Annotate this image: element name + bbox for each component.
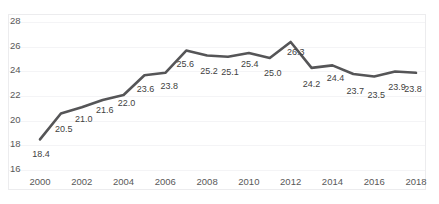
line-chart: 16182022242628 2000200220042006200820102… [0,0,439,204]
x-tick-label: 2000 [20,176,60,188]
x-tick-label: 2006 [145,176,185,188]
data-point-label: 25.0 [264,69,282,78]
x-tick-label: 2012 [271,176,311,188]
x-tick-label: 2008 [187,176,227,188]
x-tick-label: 2002 [62,176,102,188]
y-tick-label: 24 [10,65,34,75]
y-tick-label: 28 [10,16,34,26]
data-point-label: 25.1 [221,68,239,77]
x-tick-label: 2016 [354,176,394,188]
data-point-label: 23.8 [404,85,422,94]
data-point-label: 26.3 [287,48,305,57]
data-point-label: 22.0 [118,99,136,108]
data-point-label: 24.4 [327,74,345,83]
plot-area [8,14,426,190]
data-point-label: 25.4 [241,60,259,69]
gridline [9,121,425,122]
x-tick-label: 2014 [312,176,352,188]
x-tick-label: 2018 [396,176,436,188]
chart-title [0,0,439,4]
data-point-label: 18.4 [32,150,50,159]
x-tick-label: 2010 [229,176,269,188]
gridline [9,47,425,48]
gridline [9,22,425,23]
data-point-label: 23.6 [137,85,155,94]
data-point-label: 20.5 [55,125,73,134]
y-tick-label: 16 [10,164,34,174]
data-point-label: 23.8 [161,82,179,91]
data-point-label: 21.0 [75,115,93,124]
data-point-label: 23.9 [388,83,406,92]
y-tick-label: 22 [10,90,34,100]
data-point-label: 21.6 [96,106,114,115]
data-point-label: 25.2 [200,67,218,76]
gridline [9,96,425,97]
y-tick-label: 20 [10,115,34,125]
y-tick-label: 26 [10,41,34,51]
gridline [9,145,425,146]
data-point-label: 24.2 [303,80,321,89]
x-tick-label: 2004 [104,176,144,188]
data-point-label: 23.5 [367,91,385,100]
gridline [9,170,425,171]
data-point-label: 25.6 [176,60,194,69]
y-tick-label: 18 [10,139,34,149]
data-point-label: 23.7 [347,87,365,96]
